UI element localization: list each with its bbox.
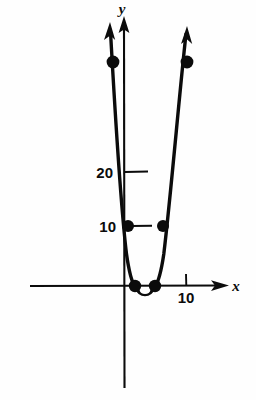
x-axis-label: x <box>231 278 240 294</box>
vertex-hole <box>140 287 150 294</box>
left-root-point <box>129 280 141 292</box>
parabola-right-branch <box>155 34 186 286</box>
y-tick-label-10: 10 <box>99 218 116 235</box>
y-axis-label: y <box>117 1 126 17</box>
axes-group <box>30 16 229 388</box>
tick-marks-group <box>125 172 186 287</box>
right-root-point <box>149 280 161 292</box>
right-upper-point <box>181 56 194 69</box>
parabola-left-branch <box>111 32 136 286</box>
right-ten-point <box>157 220 169 232</box>
left-upper-point <box>107 56 120 69</box>
x-axis-line <box>30 286 222 287</box>
y-tick-label-20: 20 <box>96 164 113 181</box>
parabola-figure: y x 20 10 10 <box>0 0 256 400</box>
y-axis-line <box>124 24 125 388</box>
x-tick-label-10: 10 <box>178 289 195 306</box>
y-tick-20 <box>125 172 148 173</box>
left-ten-point <box>122 220 134 232</box>
